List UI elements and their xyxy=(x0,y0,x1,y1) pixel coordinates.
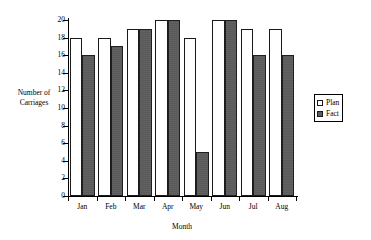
bar-fact xyxy=(139,29,152,196)
bar-fact xyxy=(82,55,95,196)
chart-legend: Plan Fact xyxy=(314,94,343,122)
bar-group: Aug xyxy=(268,20,297,196)
bar-group: Jan xyxy=(68,20,97,196)
bar-chart: Number of Carriages 02468101214161820 Ja… xyxy=(0,0,371,240)
bar-group: Jun xyxy=(211,20,240,196)
plot-area: 02468101214161820 JanFebMarAprMayJunJulA… xyxy=(68,20,296,196)
y-axis-title-line2: Carriages xyxy=(6,98,62,108)
x-tick-mark xyxy=(68,196,69,201)
y-axis-title-line1: Number of xyxy=(6,88,62,98)
x-tick-label: Jun xyxy=(211,202,240,211)
bar-group: May xyxy=(182,20,211,196)
y-axis-title: Number of Carriages xyxy=(6,88,62,107)
y-tick-label: 20 xyxy=(58,15,66,24)
x-tick-label: Feb xyxy=(97,202,126,211)
x-tick-mark xyxy=(125,196,126,201)
bar-plan xyxy=(241,29,254,196)
bar-plan xyxy=(127,29,140,196)
bar-plan xyxy=(184,38,197,196)
legend-label-plan: Plan xyxy=(326,98,339,107)
x-tick-label: Jul xyxy=(239,202,268,211)
y-tick-label: 0 xyxy=(61,191,65,200)
x-tick-label: Apr xyxy=(154,202,183,211)
bar-group: Feb xyxy=(97,20,126,196)
y-tick-label: 16 xyxy=(58,50,66,59)
bar-plan xyxy=(269,29,282,196)
bar-fact xyxy=(282,55,295,196)
bar-fact xyxy=(225,20,238,196)
bar-fact xyxy=(196,152,209,196)
x-axis-title: Month xyxy=(68,222,296,231)
bar-fact xyxy=(111,46,124,196)
legend-swatch-fact-icon xyxy=(317,111,323,117)
x-tick-mark xyxy=(268,196,269,201)
x-tick-mark xyxy=(296,196,297,201)
y-tick-label: 4 xyxy=(61,156,65,165)
x-tick-mark xyxy=(97,196,98,201)
bar-group: Mar xyxy=(125,20,154,196)
x-tick-label: Mar xyxy=(125,202,154,211)
bar-plan xyxy=(212,20,225,196)
bar-plan xyxy=(70,38,83,196)
bar-group: Apr xyxy=(154,20,183,196)
legend-item-fact: Fact xyxy=(317,108,339,119)
legend-swatch-plan-icon xyxy=(317,100,323,106)
x-tick-label: May xyxy=(182,202,211,211)
x-tick-mark xyxy=(154,196,155,201)
bar-plan xyxy=(155,20,168,196)
x-tick-label: Jan xyxy=(68,202,97,211)
y-tick-label: 8 xyxy=(61,121,65,130)
x-tick-label: Aug xyxy=(268,202,297,211)
y-tick-label: 10 xyxy=(58,103,66,112)
bar-fact xyxy=(168,20,181,196)
y-tick-label: 2 xyxy=(61,173,65,182)
x-tick-mark xyxy=(239,196,240,201)
legend-item-plan: Plan xyxy=(317,97,339,108)
y-tick-label: 14 xyxy=(58,68,66,77)
y-tick-label: 12 xyxy=(58,85,66,94)
x-tick-mark xyxy=(182,196,183,201)
bar-plan xyxy=(98,38,111,196)
y-tick-label: 18 xyxy=(58,33,66,42)
y-tick-label: 6 xyxy=(61,138,65,147)
x-tick-mark xyxy=(211,196,212,201)
legend-label-fact: Fact xyxy=(326,109,339,118)
bar-fact xyxy=(253,55,266,196)
bar-group: Jul xyxy=(239,20,268,196)
